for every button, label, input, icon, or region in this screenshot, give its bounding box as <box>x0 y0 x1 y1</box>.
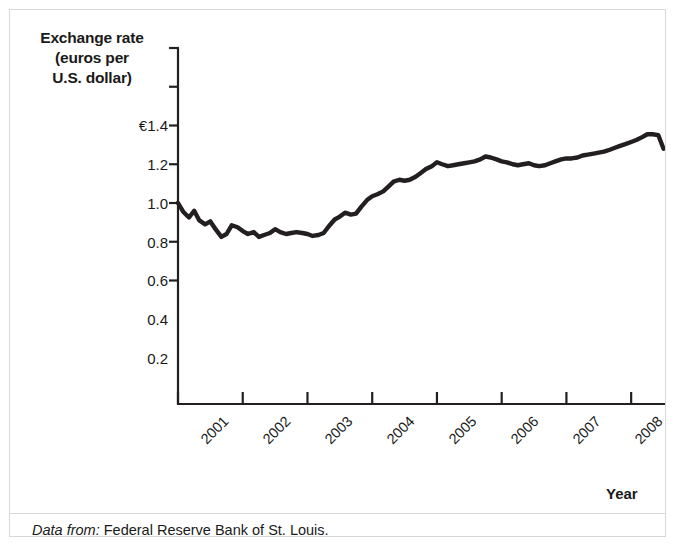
plot-svg <box>10 10 665 480</box>
x-tick-marks <box>178 392 631 404</box>
source-caption-text: Federal Reserve Bank of St. Louis. <box>104 522 329 538</box>
figure-frame: Exchange rate (euros per U.S. dollar) €1… <box>9 9 666 537</box>
caption-divider <box>10 513 665 514</box>
chart-area: Exchange rate (euros per U.S. dollar) €1… <box>10 10 665 480</box>
axes <box>169 48 665 405</box>
x-axis-title: Year <box>606 485 638 502</box>
source-caption-label: Data from: <box>32 522 100 538</box>
exchange-rate-line <box>178 134 664 237</box>
source-caption: Data from: Federal Reserve Bank of St. L… <box>32 522 329 538</box>
